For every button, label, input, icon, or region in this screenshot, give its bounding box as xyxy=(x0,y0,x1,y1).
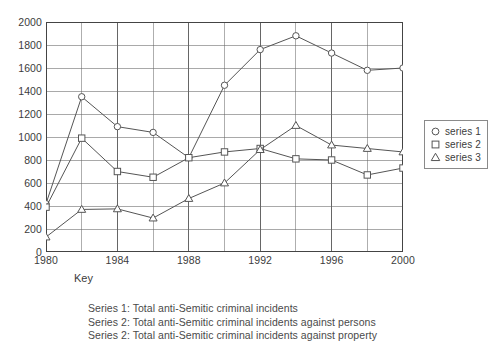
y-tick-label: 1200 xyxy=(4,109,42,119)
circle-marker-icon xyxy=(429,126,442,137)
legend-label: series 1 xyxy=(445,126,481,137)
y-tick-label: 1600 xyxy=(4,63,42,73)
x-tick-label: 1984 xyxy=(94,255,140,266)
caption-line: Series 2: Total anti-Semitic criminal in… xyxy=(88,329,488,343)
y-tick-label: 2000 xyxy=(4,17,42,27)
legend-label: series 2 xyxy=(445,139,481,150)
chart-caption: Series 1: Total anti-Semitic criminal in… xyxy=(88,302,488,343)
caption-line: Series 2: Total anti-Semitic criminal in… xyxy=(88,316,488,330)
legend-item-series-3: series 3 xyxy=(429,151,481,164)
square-marker-icon xyxy=(429,139,442,150)
y-tick-label: 600 xyxy=(4,178,42,188)
x-axis-title: Key xyxy=(74,272,93,284)
y-tick-label: 200 xyxy=(4,224,42,234)
y-tick-label: 1000 xyxy=(4,132,42,142)
plot-area xyxy=(46,22,403,252)
y-tick-label: 400 xyxy=(4,201,42,211)
chart-legend: series 1series 2series 3 xyxy=(424,120,488,169)
y-tick-label: 1800 xyxy=(4,40,42,50)
legend-item-series-2: series 2 xyxy=(429,138,481,151)
x-tick-label: 1996 xyxy=(309,255,355,266)
triangle-marker-icon xyxy=(429,152,442,163)
y-tick-label: 800 xyxy=(4,155,42,165)
chart-plot-svg xyxy=(46,22,403,252)
y-tick-label: 1400 xyxy=(4,86,42,96)
x-axis-tick-labels: 198019841988199219962000 xyxy=(46,255,403,271)
legend-item-series-1: series 1 xyxy=(429,125,481,138)
y-axis-tick-labels: 0200400600800100012001400160018002000 xyxy=(0,22,42,252)
x-tick-label: 2000 xyxy=(380,255,426,266)
chart-figure: 0200400600800100012001400160018002000 19… xyxy=(0,0,503,348)
caption-line: Series 1: Total anti-Semitic criminal in… xyxy=(88,302,488,316)
x-tick-label: 1988 xyxy=(166,255,212,266)
x-tick-label: 1980 xyxy=(23,255,69,266)
legend-label: series 3 xyxy=(445,152,481,163)
x-tick-label: 1992 xyxy=(237,255,283,266)
